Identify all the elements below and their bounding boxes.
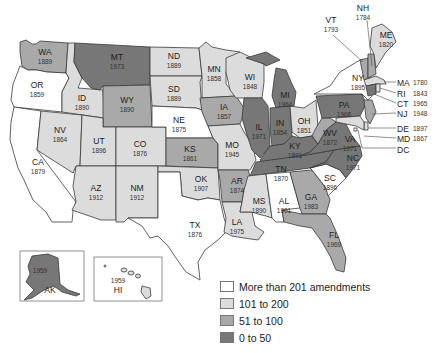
state-year-wa: 1889: [38, 58, 53, 65]
state-label-nd: ND: [168, 51, 180, 61]
state-label-va: VA: [345, 134, 356, 144]
state-label-mt: MT: [111, 52, 123, 62]
state-label-vt: VT: [326, 15, 337, 25]
state-year-wi: 1848: [243, 83, 258, 90]
state-label-ut: UT: [93, 136, 104, 146]
state-label-ne: NE: [173, 115, 185, 125]
state-year-nh: 1784: [356, 14, 371, 21]
state-label-ms: MS: [253, 196, 266, 206]
legend-label: 101 to 200: [239, 298, 289, 310]
state-year-me: 1820: [379, 41, 394, 48]
state-label-me: ME: [380, 30, 393, 40]
state-year-nm: 1912: [130, 194, 145, 201]
state-label-oh: OH: [298, 116, 311, 126]
state-year-ia: 1857: [217, 113, 232, 120]
state-label-il: IL: [255, 122, 262, 132]
state-year-la: 1975: [230, 228, 245, 235]
state-label-ri: RI: [397, 89, 406, 99]
state-label-wi: WI: [245, 72, 255, 82]
state-label-pa: PA: [339, 100, 350, 110]
state-label-id: ID: [78, 93, 87, 103]
state-label-al: AL: [279, 196, 290, 206]
legend-item-101-to-200: 101 to 200: [220, 295, 430, 312]
state-year-ne: 1875: [172, 126, 187, 133]
legend-swatch: [220, 281, 234, 292]
legend-swatch: [220, 298, 234, 309]
state-year-de: 1897: [413, 125, 428, 132]
state-year-nd: 1889: [167, 62, 182, 69]
state-year-ri: 1843: [413, 90, 428, 97]
state-year-tx: 1876: [188, 231, 203, 238]
state-label-ok: OK: [195, 174, 208, 184]
state-year-pa: 1968: [337, 111, 352, 118]
state-label-wv: WV: [323, 128, 337, 138]
state-label-fl: FL: [329, 230, 339, 240]
state-year-wv: 1872: [323, 139, 338, 146]
state-year-il: 1971: [252, 133, 267, 140]
state-label-ct: CT: [397, 99, 408, 109]
state-year-nv: 1864: [53, 136, 68, 143]
state-year-mo: 1945: [225, 151, 240, 158]
state-label-ar: AR: [231, 176, 243, 186]
legend-item-more-than-201: More than 201 amendments: [220, 278, 430, 295]
state-label-ks: KS: [184, 144, 196, 154]
state-year-al: 1901: [277, 207, 292, 214]
state-year-wy: 1890: [120, 106, 135, 113]
state-label-nm: NM: [130, 183, 143, 193]
state-label-mn: MN: [207, 64, 220, 74]
state-label-de: DE: [397, 124, 409, 134]
state-label-sd: SD: [168, 84, 180, 94]
state-label-nv: NV: [54, 125, 66, 135]
state-year-mt: 1973: [110, 63, 125, 70]
state-year-tn: 1870: [274, 175, 289, 182]
state-de: [364, 122, 368, 130]
state-label-or: OR: [31, 80, 44, 90]
legend-label: 0 to 50: [239, 332, 271, 344]
state-label-mi: MI: [280, 90, 289, 100]
state-year-ky: 1891: [288, 152, 303, 159]
legend-item-0-to-50: 0 to 50: [220, 329, 430, 346]
state-label-ca: CA: [32, 157, 44, 167]
legend-label: 51 to 100: [239, 315, 283, 327]
legend-swatch: [220, 315, 234, 326]
state-year-ak: 1959: [33, 267, 48, 274]
state-year-vt: 1793: [324, 26, 339, 33]
state-label-tx: TX: [190, 220, 201, 230]
state-label-ky: KY: [289, 141, 301, 151]
state-year-mn: 1858: [207, 75, 222, 82]
state-year-az: 1912: [89, 194, 104, 201]
state-ri: [376, 84, 380, 92]
state-year-ma: 1780: [413, 79, 428, 86]
state-year-hi: 1959: [111, 277, 126, 284]
state-label-nh: NH: [357, 3, 369, 13]
state-year-ca: 1879: [31, 168, 46, 175]
legend: More than 201 amendments 101 to 200 51 t…: [220, 278, 430, 346]
state-year-ms: 1890: [252, 207, 267, 214]
state-label-ny: NY: [352, 73, 364, 83]
state-label-mo: MO: [225, 140, 239, 150]
state-label-ma: MA: [397, 78, 410, 88]
state-label-ia: IA: [220, 102, 228, 112]
state-year-nc: 1971: [346, 164, 361, 171]
state-label-co: CO: [134, 139, 147, 149]
state-label-ga: GA: [305, 192, 318, 202]
state-label-hi: HI: [114, 285, 123, 295]
state-year-ar: 1874: [230, 187, 245, 194]
legend-swatch: [220, 332, 234, 343]
state-label-in: IN: [276, 118, 285, 128]
state-year-ny: 1895: [351, 84, 366, 91]
state-label-la: LA: [232, 217, 243, 227]
state-label-tn: TN: [275, 164, 286, 174]
state-nj: [364, 100, 376, 124]
state-year-nj: 1948: [413, 110, 428, 117]
state-year-in: 1854: [273, 129, 288, 136]
state-label-md: MD: [397, 134, 410, 144]
hawaii-inset: [94, 257, 162, 301]
state-label-wy: WY: [120, 95, 134, 105]
state-year-oh: 1851: [297, 127, 312, 134]
state-year-id: 1890: [75, 104, 90, 111]
state-label-nc: NC: [347, 153, 359, 163]
state-label-nj: NJ: [397, 109, 407, 119]
legend-item-51-to-100: 51 to 100: [220, 312, 430, 329]
state-label-az: AZ: [91, 183, 102, 193]
